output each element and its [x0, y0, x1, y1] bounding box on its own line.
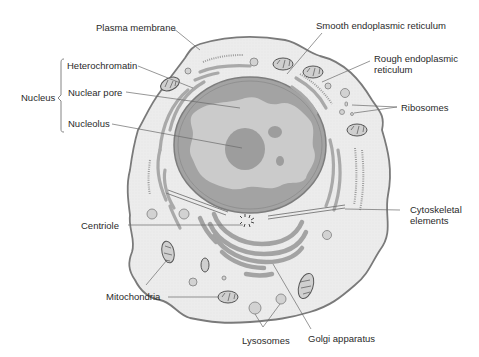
label-nucleus: Nucleus	[21, 92, 56, 103]
label-centriole: Centriole	[81, 220, 119, 231]
label-rough-er-1: Rough endoplasmic	[374, 53, 458, 64]
chromatin-spot	[276, 156, 284, 166]
chromatin-spot	[268, 126, 282, 138]
label-mitochondria: Mitochondria	[106, 291, 161, 302]
label-nucleolus: Nucleolus	[68, 118, 110, 129]
nucleus-bracket	[58, 59, 64, 132]
label-cytoskeletal-2: elements	[410, 215, 449, 226]
label-nuclear-pore: Nuclear pore	[68, 87, 122, 98]
label-smooth-er: Smooth endoplasmic reticulum	[316, 20, 446, 31]
nucleolus	[225, 128, 265, 170]
cell-diagram: Plasma membrane Smooth endoplasmic retic…	[0, 0, 479, 357]
label-golgi: Golgi apparatus	[308, 333, 375, 344]
label-rough-er-2: reticulum	[374, 64, 413, 75]
label-lysosomes: Lysosomes	[242, 335, 290, 346]
label-cytoskeletal-1: Cytoskeletal	[410, 204, 462, 215]
label-plasma-membrane: Plasma membrane	[96, 22, 176, 33]
label-heterochromatin: Heterochromatin	[67, 60, 137, 71]
label-ribosomes: Ribosomes	[401, 102, 449, 113]
